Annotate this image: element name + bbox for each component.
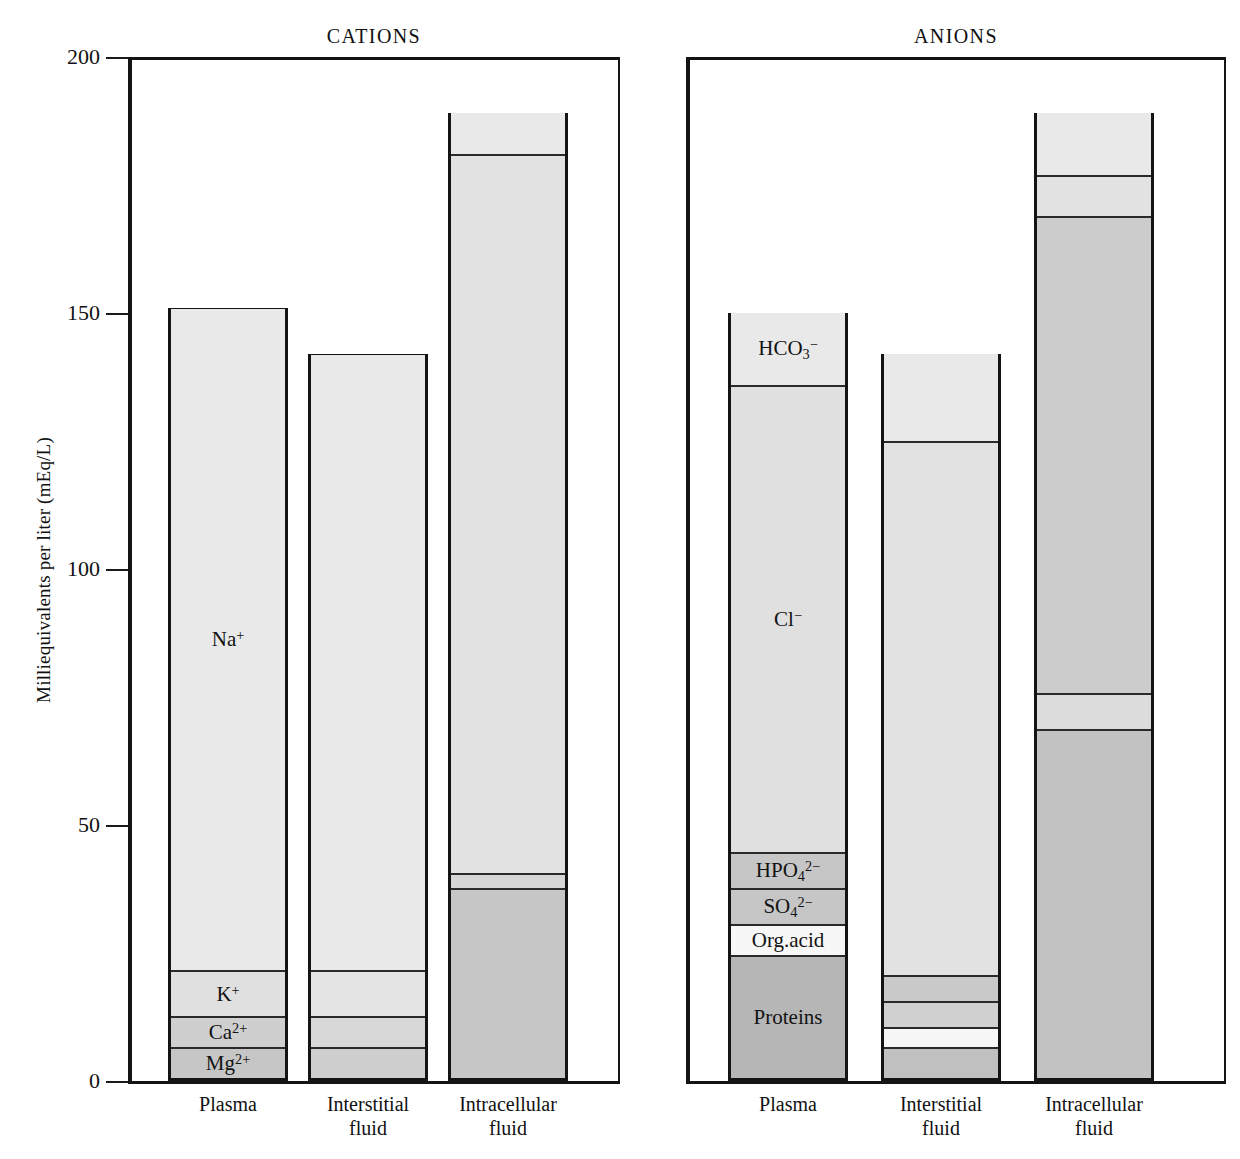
segment-organic-acid-intracellular[interactable] xyxy=(1037,693,1151,729)
segment-chloride-intracellular[interactable] xyxy=(1037,175,1151,216)
category-label-interstitial-anions: Interstitial fluid xyxy=(861,1093,1021,1140)
segment-label-organic-acid: Org.acid xyxy=(752,930,825,951)
segment-magnesium-intracellular[interactable] xyxy=(451,888,565,1078)
segment-magnesium-interstitial[interactable] xyxy=(311,1047,425,1078)
panel-cations: CATIONS Na+ K+ Ca2+ Mg2+ xyxy=(128,57,620,1084)
panel-anions-title: ANIONS xyxy=(686,25,1226,48)
category-label-intracellular-anions: Intracellular fluid xyxy=(1014,1093,1174,1140)
segment-label-sulfate: SO42− xyxy=(763,895,812,920)
category-label-interstitial-cations: Interstitial fluid xyxy=(288,1093,448,1140)
segment-calcium-plasma[interactable]: Ca2+ xyxy=(171,1016,285,1047)
segment-label-sodium: Na+ xyxy=(212,628,245,650)
segment-calcium-interstitial[interactable] xyxy=(311,1016,425,1047)
category-label-plasma-anions: Plasma xyxy=(708,1093,868,1117)
segment-bicarbonate-plasma[interactable]: HCO3− xyxy=(731,313,845,385)
y-tick-mark-0 xyxy=(106,1081,128,1083)
panel-cations-title: CATIONS xyxy=(128,25,620,48)
segment-sodium-plasma[interactable]: Na+ xyxy=(171,309,285,970)
segment-chloride-interstitial[interactable] xyxy=(884,441,998,975)
segment-potassium-intracellular[interactable] xyxy=(451,113,565,154)
y-tick-label-200: 200 xyxy=(38,46,100,68)
category-label-intracellular-cations: Intracellular fluid xyxy=(428,1093,588,1140)
y-tick-label-150: 150 xyxy=(38,302,100,324)
y-tick-label-50: 50 xyxy=(38,814,100,836)
category-label-plasma-cations: Plasma xyxy=(148,1093,308,1117)
segment-label-chloride: Cl− xyxy=(774,608,802,630)
segment-bicarbonate-intracellular[interactable] xyxy=(1037,113,1151,175)
figure-root: Milliequivalents per liter (mEq/L) 200 1… xyxy=(0,0,1240,1159)
segment-organic-acid-plasma[interactable]: Org.acid xyxy=(731,924,845,955)
segment-sulfate-interstitial[interactable] xyxy=(884,1001,998,1027)
y-tick-mark-200 xyxy=(106,57,128,59)
y-tick-mark-100 xyxy=(106,569,128,571)
segment-sulfate-plasma[interactable]: SO42− xyxy=(731,888,845,924)
bar-anions-plasma[interactable]: HCO3− Cl− HPO42− SO42− Org.acid Proteins xyxy=(728,313,848,1081)
segment-label-calcium: Ca2+ xyxy=(209,1021,248,1043)
segment-phosphate-intracellular[interactable] xyxy=(1037,216,1151,693)
y-tick-mark-50 xyxy=(106,825,128,827)
segment-organic-acid-interstitial[interactable] xyxy=(884,1027,998,1047)
segment-label-phosphate: HPO42− xyxy=(756,859,820,884)
segment-sodium-intracellular[interactable] xyxy=(451,154,565,873)
segment-proteins-interstitial[interactable] xyxy=(884,1047,998,1078)
y-tick-mark-150 xyxy=(106,313,128,315)
segment-bicarbonate-interstitial[interactable] xyxy=(884,354,998,441)
segment-phosphate-plasma[interactable]: HPO42− xyxy=(731,852,845,888)
bar-anions-interstitial[interactable] xyxy=(881,354,1001,1081)
segment-potassium-interstitial[interactable] xyxy=(311,970,425,1016)
y-tick-label-0: 0 xyxy=(38,1070,100,1092)
segment-sodium-interstitial[interactable] xyxy=(311,355,425,970)
segment-other-intracellular[interactable] xyxy=(451,873,565,888)
segment-phosphate-interstitial[interactable] xyxy=(884,975,998,1001)
panel-anions: ANIONS HCO3− Cl− HPO42− SO42− Org.acid xyxy=(686,57,1226,1084)
segment-label-magnesium: Mg2+ xyxy=(206,1052,250,1074)
segment-proteins-plasma[interactable]: Proteins xyxy=(731,955,845,1078)
segment-chloride-plasma[interactable]: Cl− xyxy=(731,385,845,852)
segment-potassium-plasma[interactable]: K+ xyxy=(171,970,285,1016)
segment-magnesium-plasma[interactable]: Mg2+ xyxy=(171,1047,285,1078)
segment-label-proteins: Proteins xyxy=(754,1007,823,1028)
bar-cations-interstitial[interactable] xyxy=(308,354,428,1081)
segment-label-bicarbonate: HCO3− xyxy=(758,337,818,362)
segment-label-potassium: K+ xyxy=(216,983,239,1005)
bar-cations-plasma[interactable]: Na+ K+ Ca2+ Mg2+ xyxy=(168,308,288,1081)
bar-cations-intracellular[interactable] xyxy=(448,113,568,1081)
bar-anions-intracellular[interactable] xyxy=(1034,113,1154,1081)
segment-proteins-intracellular[interactable] xyxy=(1037,729,1151,1078)
y-tick-label-100: 100 xyxy=(38,558,100,580)
